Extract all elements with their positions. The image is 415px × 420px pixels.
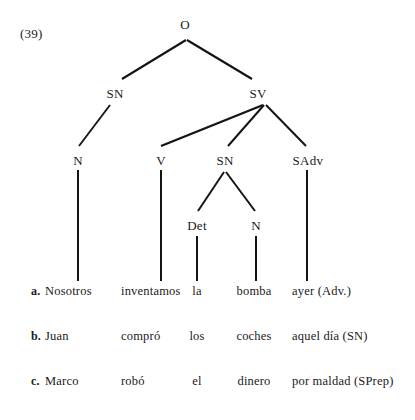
tree-edge-root-to-sv	[187, 40, 252, 79]
adjunct-cell: aquel día (SN)	[292, 328, 368, 344]
adjunct-cell: ayer (Adv.)	[292, 283, 351, 299]
tree-node-root: O	[180, 18, 190, 32]
noun-cell: bomba	[236, 283, 271, 299]
tree-edge-sn1-to-n1	[79, 105, 110, 146]
tree-node-det: Det	[187, 219, 207, 233]
tree-node-sn2: SN	[216, 154, 233, 168]
subject-cell: Nosotros	[45, 283, 92, 299]
tree-node-n1: N	[73, 154, 83, 168]
tree-edge-root-to-sn1	[122, 40, 186, 79]
noun-cell: dinero	[237, 373, 270, 389]
row-letter: b.	[31, 328, 41, 344]
subject-cell: Marco	[45, 373, 79, 389]
verb-cell: compró	[121, 328, 160, 344]
determiner-cell: la	[192, 283, 201, 299]
sentence-row: a.Nosotrosinventamoslabombaayer (Adv.)	[0, 283, 415, 328]
example-sentences-list: a.Nosotrosinventamoslabombaayer (Adv.)b.…	[0, 283, 415, 418]
row-letter: a.	[31, 283, 40, 299]
verb-cell: inventamos	[121, 283, 181, 299]
adjunct-cell: por maldad (SPrep)	[292, 373, 394, 389]
tree-node-sadv: SAdv	[293, 154, 324, 168]
row-letter: c.	[31, 373, 40, 389]
tree-edge-sv-to-v	[161, 105, 263, 146]
tree-edge-sn2-to-det	[198, 172, 224, 211]
determiner-cell: los	[189, 328, 204, 344]
noun-cell: coches	[236, 328, 271, 344]
sentence-row: c.Marcorobóeldineropor maldad (SPrep)	[0, 373, 415, 418]
tree-branch-lines	[79, 40, 306, 211]
tree-edge-sv-to-sadv	[266, 105, 306, 146]
determiner-cell: el	[192, 373, 201, 389]
subject-cell: Juan	[45, 328, 69, 344]
tree-node-sv: SV	[249, 87, 266, 101]
syntax-tree-figure: (39) OSNSVNVSNSAdvDetN a.Nosotrosinventa…	[0, 0, 415, 420]
tree-edge-sn2-to-n2	[226, 172, 255, 211]
tree-node-v: V	[156, 154, 166, 168]
tree-node-sn1: SN	[106, 87, 123, 101]
tree-edges-canvas	[0, 0, 415, 300]
verb-cell: robó	[121, 373, 145, 389]
sentence-row: b.Juancompróloscochesaquel día (SN)	[0, 328, 415, 373]
tree-node-n2: N	[251, 219, 261, 233]
